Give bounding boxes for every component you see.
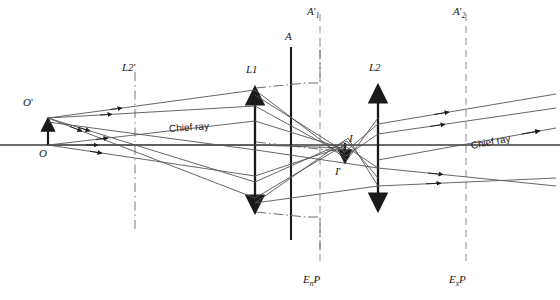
subscript-a2: 2 [462, 11, 466, 20]
label-lens2-prime: L2' [122, 62, 136, 73]
rays-l1-to-image [255, 90, 348, 203]
label-aperture-image-2: A'2 [453, 6, 465, 20]
label-image-tip: I [349, 133, 353, 144]
label-lens1: L1 [246, 64, 258, 75]
rays-from-object-base [48, 121, 256, 176]
label-object-tip: O' [23, 97, 33, 108]
label-image-base: I' [335, 166, 341, 177]
rays-from-object-tip [48, 90, 255, 198]
optics-ray-diagram: O' O L2' L1 L2 A I I' A'1 A'2 EnP ExP Ch… [0, 0, 560, 300]
label-object-base: O [39, 148, 47, 159]
label-entrance-pupil: EnP [303, 274, 320, 288]
prime-mark-image: ' [339, 165, 341, 177]
label-lens2: L2 [369, 62, 381, 73]
prime-mark-lens2: ' [134, 61, 136, 73]
prime-mark-object: ' [31, 96, 33, 108]
subscript-a1: 1 [316, 11, 320, 20]
rays-after-l2 [378, 94, 556, 186]
label-exit-pupil: ExP [449, 274, 466, 288]
label-aperture-stop: A [285, 31, 292, 42]
label-aperture-image-1: A'1 [307, 6, 319, 20]
